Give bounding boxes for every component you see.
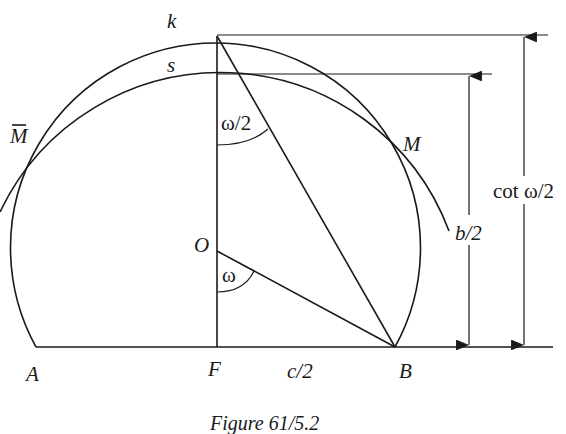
label-omega: ω: [222, 263, 236, 287]
label-k: k: [167, 9, 177, 33]
geometry-diagram: k s M M O A F c/2 B b/2 cot ω/2 ω/2 ω Fi…: [0, 0, 566, 434]
label-F: F: [207, 357, 221, 381]
label-A: A: [24, 362, 39, 386]
label-b-half: b/2: [455, 221, 482, 245]
circle-k-arc: [11, 43, 421, 347]
label-M: M: [402, 132, 422, 156]
label-omega-half: ω/2: [221, 111, 251, 135]
label-B: B: [399, 359, 412, 383]
figure-caption: Figure 61/5.2: [209, 412, 319, 434]
chord-top-to-B: [217, 36, 395, 347]
label-O: O: [194, 233, 209, 257]
circle-s-arc: [0, 73, 449, 231]
label-s: s: [167, 53, 175, 77]
label-c-half: c/2: [287, 359, 313, 383]
label-cot-omega-half: cot ω/2: [493, 179, 554, 203]
label-M-bar: M: [9, 124, 29, 148]
